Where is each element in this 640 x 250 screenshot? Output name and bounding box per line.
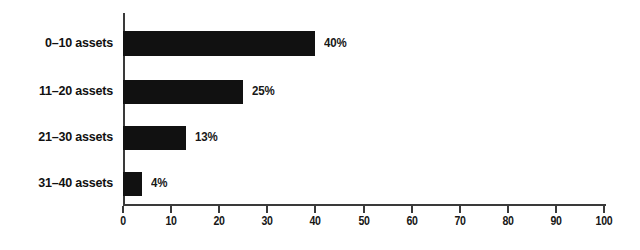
category-label-row: 11–20 assets (3, 84, 115, 98)
x-tick (122, 206, 124, 213)
x-tick (603, 206, 605, 213)
x-tick-label: 70 (442, 214, 477, 228)
plot-area: 0102030405060708090100 40%25%13%4% 0–10 … (0, 0, 640, 250)
bar-value-label: 4% (151, 176, 167, 190)
category-label: 31–40 assets (3, 176, 113, 190)
x-tick-label: 20 (202, 214, 237, 228)
category-label-row: 0–10 assets (3, 36, 115, 50)
x-tick (459, 206, 461, 213)
x-tick (266, 206, 268, 213)
x-tick-label: 90 (538, 214, 573, 228)
bar (123, 80, 243, 104)
x-tick-label: 10 (153, 214, 188, 228)
bar-value-label: 13% (195, 130, 217, 144)
x-tick-label: 50 (346, 214, 381, 228)
x-tick (507, 206, 509, 213)
category-label: 21–30 assets (3, 130, 113, 144)
x-tick (411, 206, 413, 213)
x-axis-line (123, 204, 606, 206)
bar-value-label: 40% (324, 36, 346, 50)
x-tick-label: 40 (298, 214, 333, 228)
bar (123, 126, 186, 150)
x-tick-label: 60 (394, 214, 429, 228)
x-tick (218, 206, 220, 213)
category-label-row: 21–30 assets (3, 130, 115, 144)
x-tick (555, 206, 557, 213)
x-tick (363, 206, 365, 213)
x-tick (170, 206, 172, 213)
x-tick-label: 0 (105, 214, 140, 228)
x-tick-label: 30 (250, 214, 285, 228)
x-tick (314, 206, 316, 213)
x-tick-label: 100 (586, 214, 621, 228)
category-label: 11–20 assets (3, 84, 113, 98)
bar-value-label: 25% (252, 84, 274, 98)
category-label-row: 31–40 assets (3, 176, 115, 190)
x-tick-label: 80 (490, 214, 525, 228)
bar (123, 172, 142, 196)
bar-chart: 0102030405060708090100 40%25%13%4% 0–10 … (0, 0, 640, 250)
category-label: 0–10 assets (3, 36, 113, 50)
bar (123, 31, 315, 56)
